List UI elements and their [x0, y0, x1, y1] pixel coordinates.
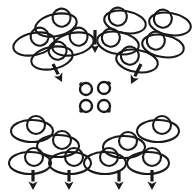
mini-ring-nub	[79, 109, 83, 113]
center-mini-group	[79, 81, 111, 113]
motif-shape	[32, 6, 78, 40]
arrow-shaft	[117, 170, 120, 182]
figure-svg	[0, 0, 192, 195]
motif-ellipse	[9, 152, 51, 174]
top-left-cluster	[10, 6, 95, 73]
mini-ring-shape	[98, 100, 111, 113]
motif-ellipse	[137, 120, 179, 142]
motif-shape	[137, 116, 179, 142]
mini-ring-nub	[107, 109, 111, 113]
mini-ring-shape	[79, 82, 92, 95]
motif-inner-circle	[143, 148, 161, 166]
motif-inner-circle	[51, 7, 72, 28]
arrow-head	[28, 182, 37, 191]
motif-inner-circle	[53, 131, 71, 149]
arrow-right-diagonal	[131, 63, 143, 84]
clusters-layer	[9, 6, 192, 174]
motif-inner-circle	[100, 27, 121, 48]
motif-shape	[9, 148, 51, 174]
motif-ellipse	[127, 152, 169, 174]
motif-shape	[11, 116, 53, 142]
mini-ring-nub	[107, 81, 111, 85]
arrow-head	[90, 45, 99, 54]
motif-shape	[127, 148, 169, 174]
motif-inner-circle	[107, 6, 128, 27]
arrow-shaft	[150, 170, 153, 182]
center-mini-group-layer	[79, 81, 111, 113]
arrow-shaft	[93, 30, 96, 45]
motif-inner-circle	[153, 116, 171, 134]
arrow-shaft	[31, 170, 34, 182]
arrow-shaft	[133, 63, 142, 77]
motif-inner-circle	[47, 40, 68, 61]
mini-ring-nub	[79, 82, 83, 86]
mini-ring-shape	[79, 100, 92, 113]
figure-canvas: Four clusters of ellipse-and-circle moti…	[0, 0, 192, 195]
motif-inner-circle	[25, 148, 43, 166]
motif-ellipse	[11, 120, 53, 142]
motif-inner-circle	[27, 116, 45, 134]
arrow-head	[114, 182, 123, 191]
motif-inner-circle	[119, 132, 137, 150]
mini-ring-shape	[98, 81, 111, 94]
bottom-right-cluster	[84, 116, 179, 174]
arrow-shaft	[67, 170, 70, 182]
motif-inner-circle	[152, 8, 173, 29]
arrow-head	[147, 182, 156, 191]
arrow-head	[64, 182, 73, 191]
top-right-cluster	[95, 6, 192, 76]
arrows-layer	[28, 30, 156, 190]
bottom-left-cluster	[9, 116, 91, 174]
motif-inner-circle	[65, 148, 83, 166]
